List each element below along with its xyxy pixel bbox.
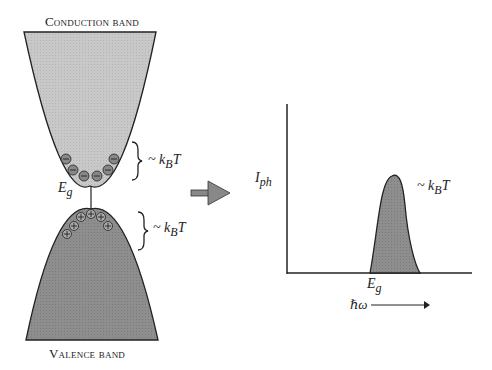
gap-E: E	[58, 180, 67, 195]
kbt-sub: B	[165, 157, 172, 171]
valence-band-shape	[26, 208, 158, 340]
kbt-T: T	[173, 152, 181, 167]
conduction-band-shape	[24, 32, 156, 187]
xtick-E: E	[367, 276, 376, 291]
kbt-k: ~ k	[148, 152, 165, 167]
kbt-sub: B	[434, 183, 441, 197]
conduction-kbt-label: ~ kBT	[148, 152, 180, 172]
kbt-k: ~ k	[417, 178, 434, 193]
x-tick-eg: Eg	[367, 276, 382, 296]
x-axis-label: ℏω	[350, 297, 368, 313]
kbt-T: T	[178, 220, 186, 235]
conduction-brace	[132, 142, 142, 180]
gap-sub: g	[67, 185, 73, 199]
valence-kbt-label: ~ kBT	[153, 220, 185, 240]
peak-kbt-label: ~ kBT	[417, 178, 449, 198]
conduction-band-label: Conduction band	[45, 14, 139, 30]
valence-brace	[138, 212, 148, 250]
gap-energy-label: Eg	[58, 180, 73, 200]
xtick-sub: g	[376, 281, 382, 295]
right-arrow-icon	[191, 181, 230, 205]
valence-band-label: Valence band	[49, 346, 125, 362]
kbt-k: ~ k	[153, 220, 170, 235]
energy-arrowhead-icon	[424, 301, 430, 309]
y-axis-label: Iph	[255, 170, 272, 190]
emission-peak	[370, 175, 420, 273]
ylabel-sub: ph	[260, 175, 272, 189]
kbt-T: T	[442, 178, 450, 193]
kbt-sub: B	[170, 225, 177, 239]
